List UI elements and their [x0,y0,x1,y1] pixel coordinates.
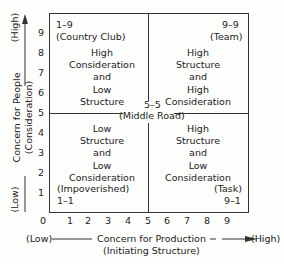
y-tick: 9 [36,28,46,38]
quadrant-description: High Structure and High Consideration [158,47,238,108]
x-tick: 3 [103,216,113,226]
x-axis-subtitle: (Initiating Structure) [103,245,200,256]
y-tick: 7 [36,68,46,78]
x-tick: 7 [182,216,192,226]
quadrant-description: High Consideration and Low Structure [60,47,144,108]
x-tick: 6 [162,216,172,226]
x-tick: 8 [202,216,212,226]
y-axis-high-label: (High) [9,10,20,46]
y-axis-low-label: (Low) [9,182,20,218]
y-tick: 4 [36,128,46,138]
quadrant-name: (Task) [214,183,242,195]
quadrant-description: Low Structure and Low Consideration [60,123,144,184]
y-tick: 6 [36,88,46,98]
x-tick: 9 [222,216,232,226]
quadrant-name: (Country Club) [56,31,126,43]
y-axis-subtitle: (Consideration) [23,73,34,163]
y-tick: 3 [36,148,46,158]
y-tick: 5 [36,108,46,118]
x-tick: 1 [65,216,75,226]
quadrant-code: 1–1 [57,195,74,207]
x-axis-low-label: (Low) [26,233,52,244]
quadrant-name: (Team) [210,31,243,43]
y-tick: 2 [36,168,46,178]
x-axis-high-label: (High) [251,233,280,244]
x-tick: 2 [83,216,93,226]
x-tick: 4 [123,216,133,226]
quadrant-description: High Structure and Low Consideration [155,123,241,184]
y-axis-title: Concern for People [11,68,22,168]
quadrant-code: 9–9 [222,19,239,31]
quadrant-code: 1–9 [56,19,73,31]
quadrant-name: (Impoverished) [57,183,129,195]
x-axis-title: Concern for Production [97,233,206,244]
grid-horizontal-divider-right [174,113,249,114]
y-tick: 8 [36,48,46,58]
y-tick: 1 [36,188,46,198]
quadrant-code: 9–1 [224,195,241,207]
center-name: (Middle Road) [119,110,185,122]
grid-horizontal-divider-left [49,113,123,114]
x-tick: 0 [38,216,48,226]
x-tick: 5 [143,216,153,226]
